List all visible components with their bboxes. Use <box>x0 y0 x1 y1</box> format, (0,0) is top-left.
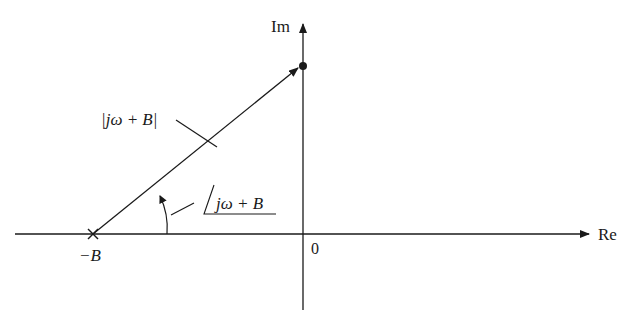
imag-axis-label: Im <box>271 17 290 36</box>
magnitude-leader-line <box>176 120 217 147</box>
complex-plane-diagram: Im Re 0 −B |jω + B| jω + B <box>0 0 637 317</box>
origin-label: 0 <box>311 240 319 257</box>
angle-arc <box>160 196 167 234</box>
vector-arrow <box>93 68 298 234</box>
jw-point-dot <box>299 62 307 70</box>
angle-label: jω + B <box>214 194 264 213</box>
angle-leader-line <box>171 203 194 215</box>
pole-label: −B <box>79 246 101 265</box>
magnitude-label: |jω + B| <box>101 110 157 129</box>
real-axis-label: Re <box>598 225 617 244</box>
